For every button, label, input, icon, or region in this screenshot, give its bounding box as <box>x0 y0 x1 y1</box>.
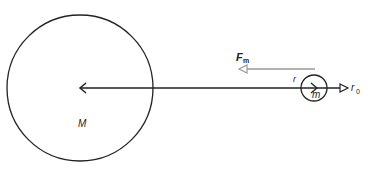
force-arrowhead-icon <box>239 65 247 73</box>
force-label: F <box>236 51 243 63</box>
gravitation-diagram: M m r r 0 F m <box>0 0 385 171</box>
force-subscript: m <box>243 57 249 64</box>
large-mass-label: M <box>78 118 87 129</box>
unit-vector-arrowhead-icon <box>340 84 348 92</box>
unit-vector-label: r <box>351 82 355 93</box>
distance-label: r <box>293 74 297 84</box>
unit-vector-subscript: 0 <box>356 88 360 95</box>
small-mass-label: m <box>312 89 320 100</box>
